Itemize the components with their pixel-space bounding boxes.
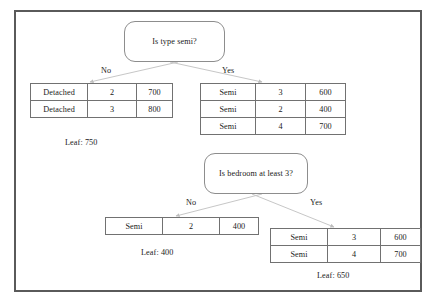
table-row: Semi 4 700 bbox=[271, 246, 421, 263]
table-row: Semi 2 400 bbox=[201, 101, 346, 118]
decision-node-type-semi[interactable]: Is type semi? bbox=[124, 21, 225, 62]
cell-price: 400 bbox=[306, 101, 346, 118]
cell-price: 700 bbox=[137, 84, 173, 101]
table-row: Semi 2 400 bbox=[106, 218, 259, 235]
cell-type: Semi bbox=[201, 101, 256, 118]
cell-bedrooms: 3 bbox=[88, 101, 137, 118]
cell-type: Semi bbox=[271, 246, 328, 263]
cell-price: 600 bbox=[381, 229, 421, 246]
cell-bedrooms: 4 bbox=[256, 118, 306, 135]
decision-node-type-semi-label: Is type semi? bbox=[152, 36, 197, 47]
table-row: Detached 2 700 bbox=[31, 84, 173, 101]
cell-type: Semi bbox=[201, 118, 256, 135]
cell-bedrooms: 2 bbox=[88, 84, 137, 101]
cell-price: 700 bbox=[381, 246, 421, 263]
table-semi: Semi 3 600 Semi 2 400 Semi 4 700 bbox=[200, 83, 346, 135]
decision-node-bedroom-label: Is bedroom at least 3? bbox=[219, 168, 293, 179]
cell-price: 800 bbox=[137, 101, 173, 118]
cell-type: Semi bbox=[271, 229, 328, 246]
edge-label-bedroom-yes: Yes bbox=[310, 198, 322, 207]
cell-type: Detached bbox=[31, 84, 88, 101]
edge-label-root-no: No bbox=[101, 66, 111, 75]
cell-type: Semi bbox=[201, 84, 256, 101]
table-semi-fewer-bedrooms: Semi 2 400 bbox=[105, 217, 259, 235]
table-semi-three-or-more-bedrooms: Semi 3 600 Semi 4 700 bbox=[270, 228, 421, 263]
leaf-value-detached: Leaf: 750 bbox=[65, 138, 98, 147]
cell-price: 700 bbox=[306, 118, 346, 135]
cell-type: Semi bbox=[106, 218, 163, 235]
cell-type: Detached bbox=[31, 101, 88, 118]
table-detached: Detached 2 700 Detached 3 800 bbox=[30, 83, 173, 118]
decision-tree-diagram: Is type semi? No Yes Detached 2 700 Deta… bbox=[0, 0, 435, 307]
cell-bedrooms: 2 bbox=[256, 101, 306, 118]
table-row: Semi 3 600 bbox=[271, 229, 421, 246]
cell-bedrooms: 3 bbox=[256, 84, 306, 101]
decision-node-bedroom-at-least-3[interactable]: Is bedroom at least 3? bbox=[204, 153, 308, 194]
table-row: Semi 4 700 bbox=[201, 118, 346, 135]
edge-label-root-yes: Yes bbox=[222, 66, 234, 75]
cell-price: 600 bbox=[306, 84, 346, 101]
leaf-value-semi-no: Leaf: 400 bbox=[141, 248, 174, 257]
cell-price: 400 bbox=[220, 218, 259, 235]
cell-bedrooms: 4 bbox=[328, 246, 381, 263]
table-row: Semi 3 600 bbox=[201, 84, 346, 101]
table-row: Detached 3 800 bbox=[31, 101, 173, 118]
cell-bedrooms: 2 bbox=[163, 218, 220, 235]
cell-bedrooms: 3 bbox=[328, 229, 381, 246]
edge-label-bedroom-no: No bbox=[186, 198, 196, 207]
leaf-value-semi-yes: Leaf: 650 bbox=[317, 271, 350, 280]
